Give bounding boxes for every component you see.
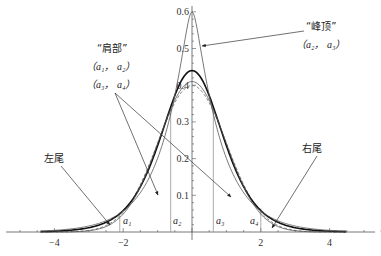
y-tick-label: 0.6	[177, 6, 190, 17]
shoulder-annotation: “肩部” （a₁， a₂） （a₃， a₄）	[86, 42, 231, 197]
peak-title: “峰顶”	[306, 21, 336, 32]
y-tick-label: 0.2	[177, 153, 190, 164]
right-tail-annotation: 右尾	[272, 142, 322, 228]
x-tick-label: 2	[258, 237, 263, 248]
left-tail-label: 左尾	[44, 152, 64, 164]
distribution-chart: −4−224 0.10.20.30.40.50.6 “峰顶” （a₂， a₃） …	[0, 0, 381, 256]
shoulder-arrow-left	[115, 93, 158, 195]
shoulder-title: “肩部”	[97, 42, 127, 54]
right-tail-label: 右尾	[302, 142, 322, 154]
peak-arrow	[202, 31, 304, 46]
y-axis: 0.10.20.30.40.50.6	[177, 6, 197, 240]
a4-label: a₄	[250, 215, 259, 226]
left-tail-annotation: 左尾	[44, 152, 110, 225]
shoulder-range-2: （a₃， a₄）	[86, 79, 135, 90]
y-tick-label: 0.1	[177, 190, 190, 201]
a1-label: a₁	[123, 215, 131, 226]
x-tick-label: −2	[118, 237, 129, 248]
y-axis-ticks	[192, 12, 196, 225]
y-axis-tick-labels: 0.10.20.30.40.50.6	[177, 6, 190, 201]
x-tick-label: 4	[327, 237, 332, 248]
a2-label: a₂	[173, 215, 182, 226]
a3-label: a₃	[216, 215, 225, 226]
left-tail-arrow	[61, 166, 110, 225]
x-tick-label: −4	[49, 237, 60, 248]
curve-thin	[41, 82, 346, 232]
peak-annotation: “峰顶” （a₂， a₃）	[202, 21, 345, 50]
y-tick-label: 0.3	[177, 116, 190, 127]
x-axis-tick-labels: −4−224	[49, 237, 332, 248]
vertical-markers	[120, 107, 261, 232]
peak-range: （a₂， a₃）	[296, 39, 345, 50]
right-tail-arrow	[272, 156, 317, 228]
shoulder-range-1: （a₁， a₂）	[86, 61, 135, 72]
